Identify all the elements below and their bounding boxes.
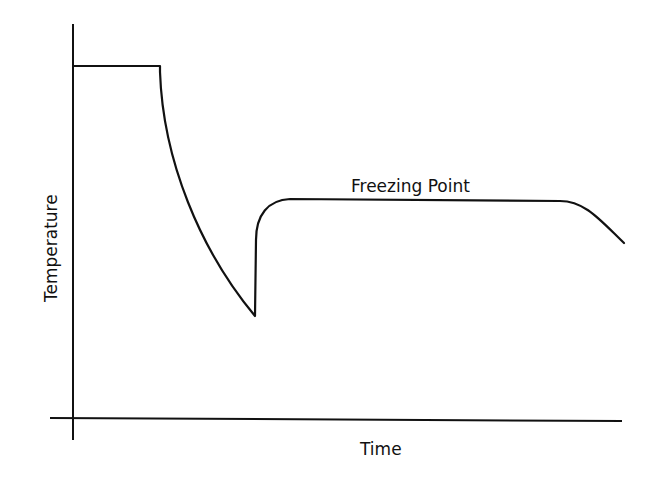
x-axis — [50, 418, 622, 421]
cooling-curve-chart: Freezing Point Time Temperature — [0, 0, 656, 486]
freezing-point-label: Freezing Point — [351, 176, 470, 196]
y-axis-label: Temperature — [41, 194, 61, 303]
temperature-curve — [74, 66, 624, 316]
x-axis-label: Time — [359, 439, 402, 459]
